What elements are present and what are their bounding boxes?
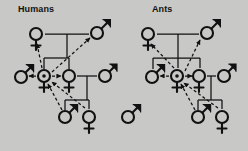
node-a-lone-male [122, 105, 141, 123]
node-a-queen [142, 28, 154, 50]
node-a-drone [201, 20, 220, 39]
node-a-brother [146, 65, 165, 83]
node-a-mate [218, 64, 236, 82]
figure-canvas: Humans Ants [0, 0, 248, 151]
node-h-focal [38, 70, 50, 92]
ants-pedigree-lines [153, 34, 222, 110]
node-h-mate [99, 64, 117, 82]
node-a-sister [193, 70, 205, 92]
node-h-father [91, 20, 110, 39]
node-h-sister [63, 70, 75, 92]
node-h-brother [15, 65, 34, 83]
node-a-daughter [216, 111, 228, 133]
pedigree-graphics [0, 0, 248, 151]
node-a-son [192, 105, 211, 123]
node-h-son [59, 105, 78, 123]
node-h-mother [30, 28, 42, 50]
node-a-focal [171, 70, 183, 92]
humans-pedigree-lines [44, 34, 97, 110]
node-h-daughter [83, 111, 95, 133]
